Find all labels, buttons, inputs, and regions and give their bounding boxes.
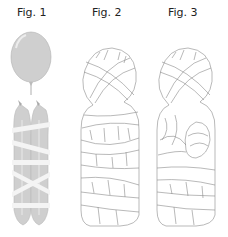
figure-3 [157, 48, 215, 226]
figures-illustration [0, 0, 228, 237]
balloon-icon [11, 32, 51, 82]
figure-2 [81, 48, 139, 226]
figure-1 [11, 32, 51, 225]
